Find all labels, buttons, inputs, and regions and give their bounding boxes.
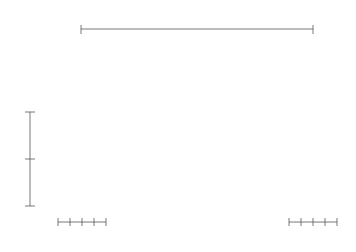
width-dimension-right [289,218,337,226]
width-dimension-left [58,218,106,226]
height-dimension [25,112,35,206]
truss-diagram [0,0,356,252]
span-dimension [81,25,313,34]
